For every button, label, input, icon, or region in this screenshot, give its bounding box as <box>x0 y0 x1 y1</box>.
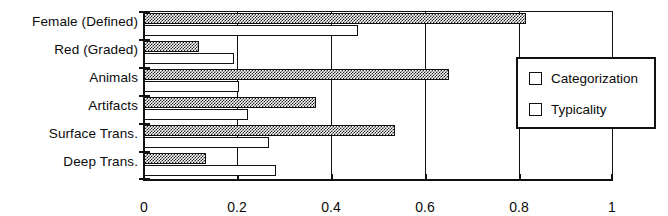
legend-swatch-typicality-icon <box>529 103 542 116</box>
bar-typicality-female-defined <box>144 25 358 36</box>
legend-swatch-categorization-icon <box>529 72 542 85</box>
legend-label-categorization: Categorization <box>551 72 638 86</box>
category-label-artifacts: Artifacts <box>88 99 138 113</box>
bar-typicality-animals <box>144 81 239 92</box>
bar-categorization-deep-trans <box>144 153 206 164</box>
legend-label-typicality: Typicality <box>551 103 607 117</box>
bar-typicality-red-graded <box>144 53 234 64</box>
legend-item-typicality: Typicality <box>529 103 607 117</box>
x-tick-label-0-8: 0.8 <box>509 200 528 214</box>
bar-typicality-surface-trans <box>144 137 269 148</box>
bar-typicality-artifacts <box>144 109 248 120</box>
bar-typicality-deep-trans <box>144 165 276 176</box>
category-label-female-defined: Female (Defined) <box>32 15 138 29</box>
x-tick-label-0-4: 0.4 <box>321 200 340 214</box>
category-label-red-graded: Red (Graded) <box>54 43 138 57</box>
x-tick-label-1: 1 <box>608 200 616 214</box>
x-tick-0-8 <box>519 174 521 181</box>
gridline-0-6 <box>425 11 426 180</box>
gridline-0-2 <box>237 11 238 180</box>
gridline-0-4 <box>331 11 332 180</box>
x-axis-line <box>143 179 613 181</box>
legend: Categorization Typicality <box>516 57 656 129</box>
x-tick-0-6 <box>425 174 427 181</box>
x-tick-0-4 <box>331 174 333 181</box>
legend-item-categorization: Categorization <box>529 72 638 86</box>
bar-chart: Female (Defined) Red (Graded) Animals Ar… <box>0 0 668 216</box>
bar-categorization-animals <box>144 69 449 80</box>
bar-categorization-surface-trans <box>144 125 395 136</box>
x-tick-1 <box>611 174 613 181</box>
category-label-animals: Animals <box>89 71 138 85</box>
bar-categorization-female-defined <box>144 13 526 24</box>
category-label-deep-trans: Deep Trans. <box>63 155 138 169</box>
bar-categorization-red-graded <box>144 41 199 52</box>
x-tick-label-0: 0 <box>140 200 148 214</box>
category-label-surface-trans: Surface Trans. <box>49 127 138 141</box>
x-tick-label-0-6: 0.6 <box>415 200 434 214</box>
x-tick-label-0-2: 0.2 <box>227 200 246 214</box>
bar-categorization-artifacts <box>144 97 316 108</box>
plot-top-rule <box>143 11 613 12</box>
